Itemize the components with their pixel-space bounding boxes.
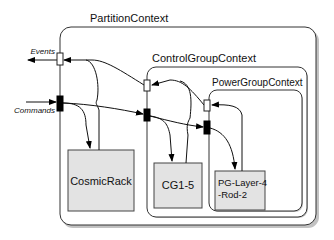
commands-label: Commands bbox=[14, 106, 55, 115]
control-events-port bbox=[144, 80, 150, 91]
component-pg-layer-4-rod-2: PG-Layer-4 -Rod-2 bbox=[215, 171, 267, 210]
pg-label-line1: PG-Layer-4 bbox=[218, 177, 267, 188]
component-cosmicrack: CosmicRack bbox=[68, 150, 134, 211]
pg-label-line2: -Rod-2 bbox=[218, 189, 247, 200]
control-commands-port bbox=[144, 109, 150, 121]
component-cg1-5: CG1-5 bbox=[154, 163, 202, 208]
cosmicrack-label: CosmicRack bbox=[70, 175, 132, 187]
power-group-context-label: PowerGroupContext bbox=[212, 77, 303, 88]
partition-context-label: PartitionContext bbox=[90, 12, 168, 24]
events-label: Events bbox=[31, 47, 55, 56]
power-events-port bbox=[204, 100, 210, 111]
architecture-diagram: PartitionContext ControlGroupContext Pow… bbox=[0, 0, 334, 240]
partition-commands-port bbox=[57, 96, 63, 111]
power-commands-port bbox=[204, 121, 210, 134]
control-group-context-label: ControlGroupContext bbox=[152, 52, 256, 64]
cg1-5-label: CG1-5 bbox=[162, 179, 194, 191]
partition-events-port bbox=[57, 53, 63, 65]
